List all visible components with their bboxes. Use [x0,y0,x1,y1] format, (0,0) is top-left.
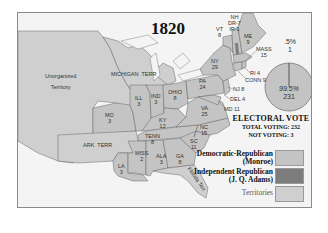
label-ga: GA 8 [176,153,184,165]
legend-swatch-independent-republican [275,168,304,184]
legend-swatch-democratic-republican [275,150,304,166]
electoral-heading: ELECTORAL VOTE [231,114,311,123]
legend-item-independent-republican: Independent Republican (J. Q. Adams) [194,168,273,183]
legend-item-territories: Territories [242,189,273,197]
label-ky: KY 12 [159,117,166,129]
label-conn: CONN 9 [245,77,266,83]
pie-major-votes: 231 [273,93,305,101]
pie-major-label: 99.5% 231 [273,85,305,101]
label-ri: RI 4 [250,70,260,76]
legend-sublabel: (J. Q. Adams) [194,176,273,184]
region-ri [242,61,246,69]
label-vt: VT 8 [216,26,223,38]
label-me: ME 9 [244,33,252,45]
label-unorganized: Unorganized Territory [45,71,76,93]
label-mo: MO 3 [105,112,114,124]
region-mo [93,103,136,135]
not-voting: NOT VOTING: 3 [231,131,311,139]
total-voting: TOTAL VOTING: 232 [231,123,311,131]
label-nc: NC 15 [200,124,208,136]
electoral-summary: ELECTORAL VOTE TOTAL VOTING: 232 NOT VOT… [231,114,311,139]
label-ny: NY 29 [211,58,219,70]
map-title: 1820 [151,19,185,39]
label-ohio: OHIO 8 [168,89,182,101]
legend-sublabel: (Monroe) [197,158,273,166]
label-ind: IND 3 [151,93,160,105]
pie-major-pct: 99.5% [273,85,305,93]
label-nj: NJ 8 [233,86,244,92]
label-ark-terr: ARK TERR [83,142,112,148]
pie-minor-label: .5% 1 [280,38,300,54]
legend-item-democratic-republican: Democratic-Republican (Monroe) [197,150,273,165]
map-frame: 1820 Unorganized Territory MICHIGAN TERR… [17,12,312,208]
label-nh: NH DR-7 IR-1 [228,14,241,32]
label-ill: ILL 3 [135,95,143,107]
label-pa: PA 24 [199,78,206,90]
legend-label: Territories [242,189,273,197]
pie-minor-votes: 1 [280,46,300,54]
label-md: MD 11 [224,106,240,112]
label-del: DEL 4 [230,96,245,102]
label-mass: MASS 15 [256,46,272,58]
label-va: VA 25 [201,105,208,117]
pie-minor-pct: .5% [280,38,300,46]
label-tenn: TENN 8 [145,133,160,145]
label-la: LA 3 [118,163,125,175]
label-miss: MISS 2 [135,150,148,162]
legend-swatch-territories [275,186,304,202]
label-ala: ALA 3 [156,153,166,165]
label-michigan-terr: MICHIGAN TERR [111,71,156,77]
region-mass [233,53,252,63]
region-conn [233,62,242,71]
